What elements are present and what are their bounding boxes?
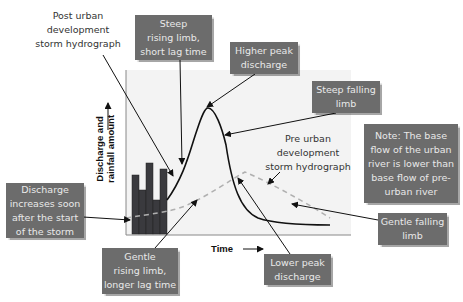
gentle-falling-limb-box: Gentle falling limb (378, 213, 447, 245)
pre-urban-label: Pre urban development storm hydrograph (262, 132, 354, 174)
steep-falling-limb-box: Steep falling limb (312, 81, 380, 113)
note-box: Note: The base flow of the urban river i… (364, 124, 458, 203)
lower-peak-box: Lower peak discharge (264, 254, 331, 285)
steep-rising-limb-box: Steep rising limb, short lag time (135, 15, 212, 60)
post-urban-label: Post urban development storm hydrograph (28, 9, 128, 51)
gentle-rising-limb-box: Gentle rising limb, longer lag time (102, 248, 178, 294)
y-axis-label: Discharge and rainfall amount (94, 94, 116, 204)
x-axis-label: Time (211, 243, 233, 254)
rainfall-bars (132, 163, 167, 234)
discharge-increases-box: Discharge increases soon after the start… (6, 183, 84, 238)
higher-peak-box: Higher peak discharge (230, 42, 298, 74)
